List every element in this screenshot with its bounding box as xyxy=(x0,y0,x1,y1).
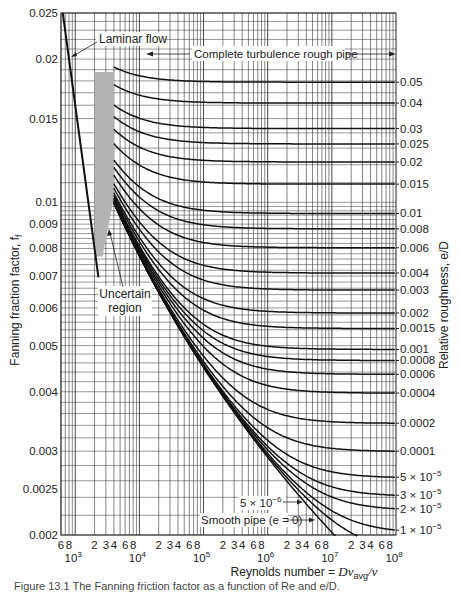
complete-turbulence-annotation: Complete turbulence rough pipe xyxy=(146,46,396,61)
roughness-curve xyxy=(114,117,395,144)
roughness-label: 5 × 10−5 xyxy=(400,469,442,483)
uncertain-label-line1: Uncertain xyxy=(99,287,150,301)
roughness-curve xyxy=(114,85,395,104)
svg-text:3: 3 xyxy=(103,539,109,551)
roughness-curve xyxy=(114,160,395,213)
roughness-label: 0.03 xyxy=(400,123,422,135)
svg-text:6: 6 xyxy=(314,539,320,551)
y-axis-title: Fanning fraction factor, ff xyxy=(8,234,24,366)
svg-text:0.006: 0.006 xyxy=(29,302,58,314)
svg-text:108: 108 xyxy=(385,550,403,564)
roughness-label: 0.0008 xyxy=(400,354,435,366)
roughness-label: 0.015 xyxy=(400,178,429,190)
smooth-pipe-annotation: Smooth pipe (e = 0) xyxy=(200,513,315,527)
svg-text:4: 4 xyxy=(175,539,182,551)
svg-text:0.008: 0.008 xyxy=(29,242,58,254)
x-axis-ticks: 6823468234682346823468234681031041051061… xyxy=(58,539,403,564)
roughness-curve xyxy=(114,67,395,82)
roughness-label: 0.05 xyxy=(400,76,422,88)
roughness-labels: 0.050.040.030.0250.020.0150.010.0080.006… xyxy=(396,76,442,536)
roughness-label: 0.025 xyxy=(400,138,429,150)
roughness-label: 0.008 xyxy=(400,223,429,235)
svg-text:8: 8 xyxy=(194,539,200,551)
svg-text:4: 4 xyxy=(367,539,374,551)
roughness-label: 0.0001 xyxy=(400,445,435,457)
roughness-label: 0.003 xyxy=(400,284,429,296)
roughness-curve xyxy=(114,105,395,129)
svg-text:2: 2 xyxy=(348,539,354,551)
roughness-label: 2 × 10−5 xyxy=(400,501,442,515)
svg-text:0.015: 0.015 xyxy=(29,113,58,125)
svg-text:2: 2 xyxy=(220,539,226,551)
svg-text:8: 8 xyxy=(66,539,72,551)
roughness-label: 3 × 10−5 xyxy=(400,487,442,501)
svg-text:106: 106 xyxy=(257,550,275,564)
svg-text:4: 4 xyxy=(111,539,118,551)
svg-text:104: 104 xyxy=(129,550,147,564)
svg-text:8: 8 xyxy=(130,539,136,551)
svg-text:0.005: 0.005 xyxy=(29,340,58,352)
arrow-right-icon xyxy=(389,52,396,57)
svg-text:4: 4 xyxy=(239,539,246,551)
svg-text:6: 6 xyxy=(122,539,128,551)
svg-text:8: 8 xyxy=(258,539,264,551)
svg-text:0.025: 0.025 xyxy=(29,7,58,19)
figure-caption: Figure 13.1 The Fanning friction factor … xyxy=(14,580,340,592)
roughness-label: 0.01 xyxy=(400,207,422,219)
svg-text:8: 8 xyxy=(322,539,328,551)
svg-text:0.01: 0.01 xyxy=(36,196,58,208)
svg-text:8: 8 xyxy=(387,539,393,551)
roughness-label: 0.004 xyxy=(400,267,429,279)
y-axis-ticks: 0.0250.020.0150.010.0090.0080.0070.0060.… xyxy=(23,7,59,541)
roughness-label: 0.006 xyxy=(400,242,429,254)
svg-text:2: 2 xyxy=(155,539,161,551)
arrow-left-icon xyxy=(146,52,153,57)
arrowhead-icon xyxy=(71,52,77,57)
svg-text:0.02: 0.02 xyxy=(36,53,58,65)
svg-text:0.009: 0.009 xyxy=(29,218,58,230)
svg-text:3: 3 xyxy=(359,539,365,551)
complete-turbulence-label: Complete turbulence rough pipe xyxy=(194,48,358,60)
roughness-label: 0.0004 xyxy=(400,387,436,399)
svg-text:6: 6 xyxy=(250,539,256,551)
arrowhead-icon xyxy=(309,518,315,523)
roughness-label: 0.0015 xyxy=(400,322,435,334)
svg-text:3: 3 xyxy=(167,539,173,551)
svg-text:3: 3 xyxy=(231,539,237,551)
svg-text:4: 4 xyxy=(303,539,310,551)
roughness-label: 0.0002 xyxy=(400,417,435,429)
y2-axis-title: Relative roughness, e/D xyxy=(437,241,451,369)
svg-text:0.004: 0.004 xyxy=(29,386,58,398)
svg-text:0.003: 0.003 xyxy=(29,445,58,457)
svg-text:0.002: 0.002 xyxy=(29,529,58,541)
roughness-label: 0.02 xyxy=(400,156,422,168)
svg-text:107: 107 xyxy=(321,550,339,564)
roughness-label: 0.04 xyxy=(400,97,423,109)
roughness-label: 0.002 xyxy=(400,307,429,319)
svg-text:6: 6 xyxy=(186,539,192,551)
svg-text:6: 6 xyxy=(379,539,385,551)
svg-text:0.007: 0.007 xyxy=(29,270,58,282)
svg-text:103: 103 xyxy=(65,550,83,564)
roughness-curve xyxy=(114,129,395,162)
svg-text:0.0025: 0.0025 xyxy=(23,483,58,495)
roughness-label: 0.0006 xyxy=(400,368,435,380)
svg-text:2: 2 xyxy=(91,539,97,551)
svg-text:6: 6 xyxy=(58,539,64,551)
svg-text:2: 2 xyxy=(284,539,290,551)
laminar-flow-label: Laminar flow xyxy=(99,32,167,46)
uncertain-label-line2: region xyxy=(108,301,141,315)
roughness-label: 1 × 10−5 xyxy=(400,522,442,536)
svg-text:3: 3 xyxy=(295,539,301,551)
x-axis-title: Reynolds number = Dvavg/ν xyxy=(231,564,378,581)
roughness-curve xyxy=(114,175,395,248)
roughness-curve xyxy=(114,144,395,185)
arrowhead-icon xyxy=(107,229,112,236)
laminar-flow-line xyxy=(63,13,99,277)
svg-text:105: 105 xyxy=(193,550,211,564)
